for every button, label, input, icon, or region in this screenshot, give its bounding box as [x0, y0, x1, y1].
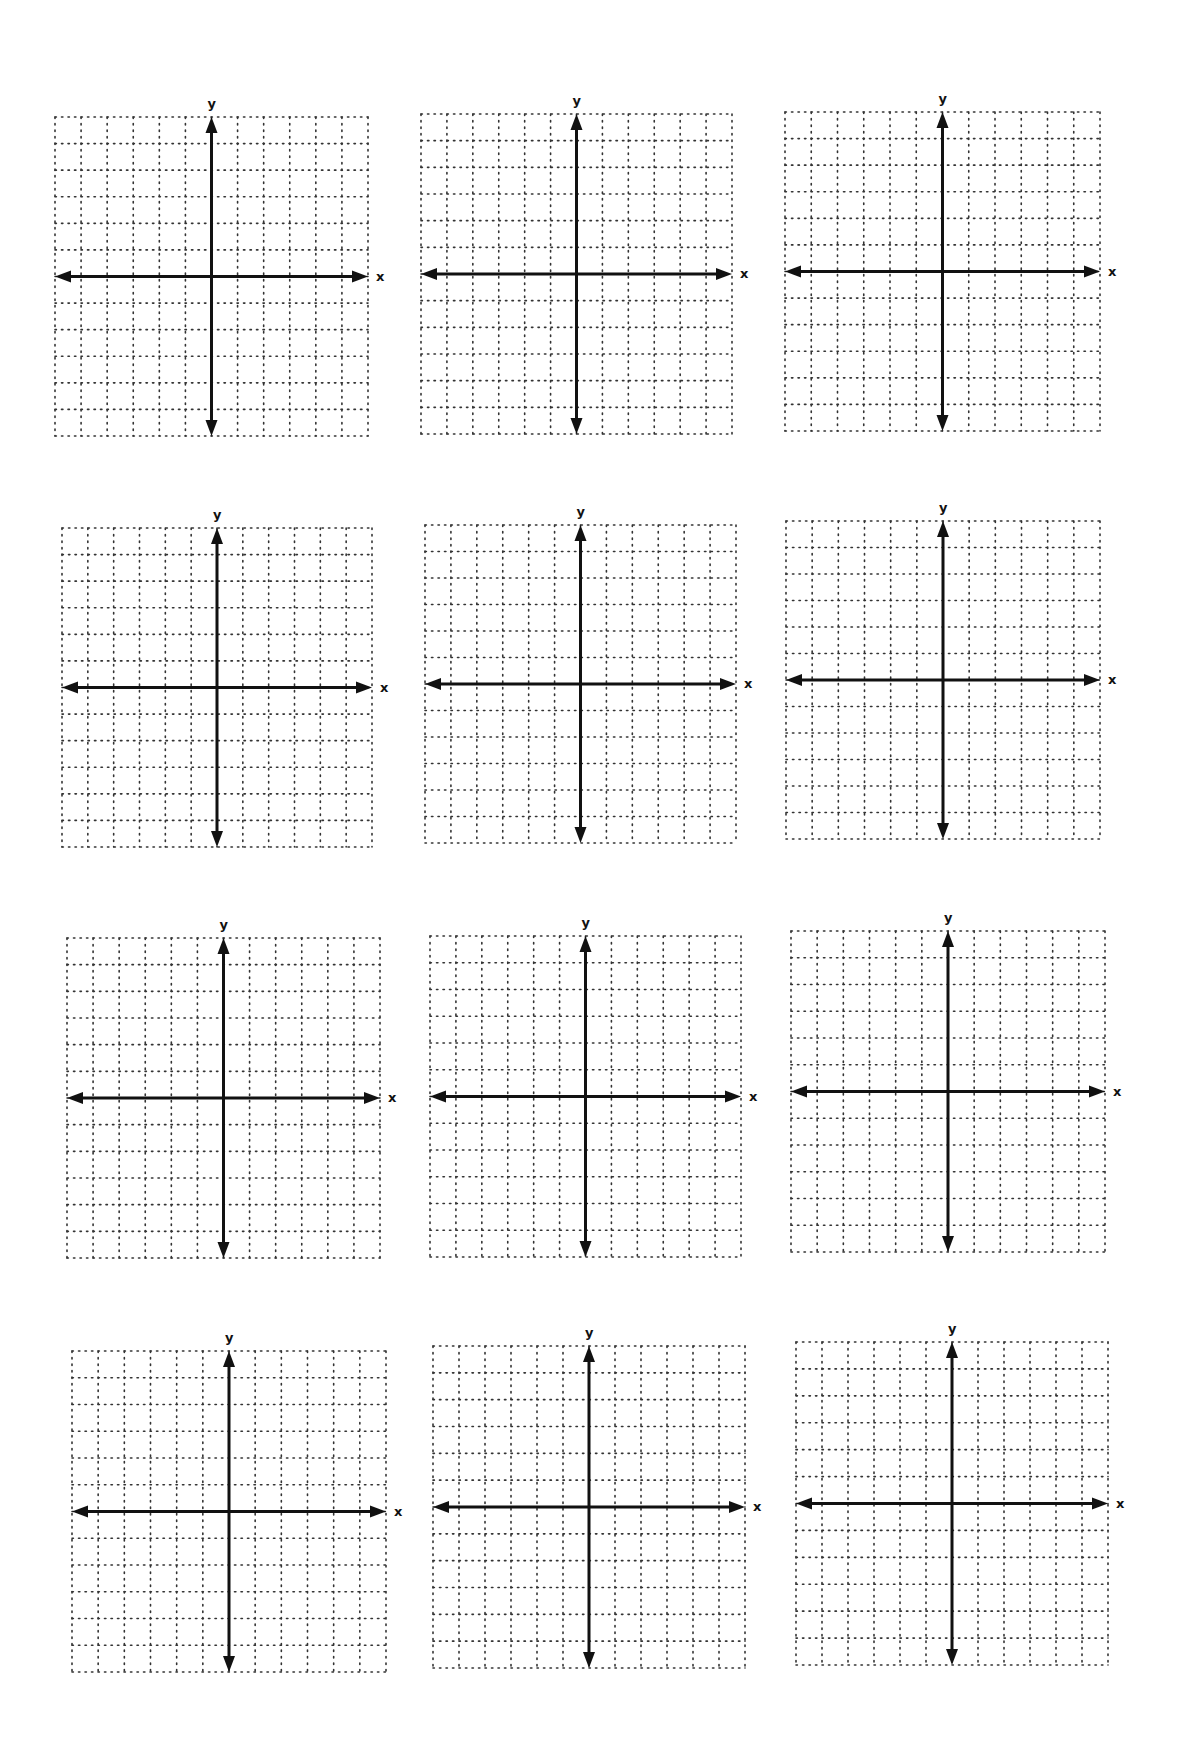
axes	[785, 112, 1100, 431]
y-axis-label: y	[582, 916, 590, 929]
arrow-down-icon	[571, 418, 583, 434]
arrow-down-icon	[218, 1242, 230, 1258]
grid	[425, 525, 736, 843]
axes	[433, 1346, 745, 1668]
arrow-down-icon	[580, 1241, 592, 1257]
y-axis-label: y	[577, 505, 585, 518]
y-axis-label: y	[948, 1322, 956, 1335]
coordinate-plane-6: xy	[786, 521, 1100, 839]
arrow-right-icon	[729, 1501, 745, 1513]
arrow-up-icon	[942, 931, 954, 947]
coordinate-plane-9: xy	[791, 931, 1105, 1252]
x-axis-label: x	[753, 1500, 761, 1513]
arrow-right-icon	[1089, 1086, 1105, 1098]
arrow-down-icon	[583, 1652, 595, 1668]
axes	[796, 1342, 1108, 1665]
arrow-down-icon	[575, 827, 587, 843]
arrow-right-icon	[725, 1091, 741, 1103]
arrow-left-icon	[433, 1501, 449, 1513]
arrow-up-icon	[211, 528, 223, 544]
axes	[425, 525, 736, 843]
x-axis-label: x	[740, 267, 748, 280]
y-axis-label: y	[944, 911, 952, 924]
x-axis-label: x	[1108, 673, 1116, 686]
arrow-right-icon	[1092, 1498, 1108, 1510]
arrow-down-icon	[223, 1656, 235, 1672]
y-axis-label: y	[220, 918, 228, 931]
y-axis-label: y	[213, 508, 221, 521]
coordinate-plane-12: xy	[796, 1342, 1108, 1665]
arrow-left-icon	[425, 678, 441, 690]
arrow-left-icon	[62, 682, 78, 694]
arrow-left-icon	[430, 1091, 446, 1103]
x-axis-label: x	[394, 1505, 402, 1518]
axes	[421, 114, 732, 434]
arrow-up-icon	[223, 1351, 235, 1367]
arrow-right-icon	[720, 678, 736, 690]
arrow-left-icon	[72, 1506, 88, 1518]
x-axis-label: x	[1108, 265, 1116, 278]
x-axis-label: x	[388, 1091, 396, 1104]
grid	[421, 114, 732, 434]
x-axis-label: x	[380, 681, 388, 694]
coordinate-plane-3: xy	[785, 112, 1100, 431]
arrow-right-icon	[370, 1506, 386, 1518]
grid	[430, 936, 741, 1257]
y-axis-label: y	[939, 92, 947, 105]
coordinate-plane-8: xy	[430, 936, 741, 1257]
arrow-left-icon	[785, 266, 801, 278]
grid	[796, 1342, 1108, 1665]
arrow-up-icon	[571, 114, 583, 130]
arrow-left-icon	[421, 268, 437, 280]
x-axis-label: x	[744, 677, 752, 690]
arrow-down-icon	[942, 1236, 954, 1252]
arrow-right-icon	[1084, 266, 1100, 278]
y-axis-label: y	[939, 501, 947, 514]
arrow-up-icon	[937, 521, 949, 537]
arrow-right-icon	[1084, 674, 1100, 686]
x-axis-label: x	[749, 1090, 757, 1103]
coordinate-plane-4: xy	[62, 528, 372, 847]
axes	[62, 528, 372, 847]
axes	[786, 521, 1100, 839]
axes	[791, 931, 1105, 1252]
grid	[785, 112, 1100, 431]
arrow-up-icon	[583, 1346, 595, 1362]
coordinate-plane-10: xy	[72, 1351, 386, 1672]
grid	[791, 931, 1105, 1252]
arrow-left-icon	[786, 674, 802, 686]
axes	[67, 938, 380, 1258]
arrow-left-icon	[55, 271, 71, 283]
arrow-left-icon	[796, 1498, 812, 1510]
x-axis-label: x	[1116, 1497, 1124, 1510]
arrow-down-icon	[946, 1649, 958, 1665]
arrow-down-icon	[206, 420, 218, 436]
grid	[67, 938, 380, 1258]
coordinate-plane-2: xy	[421, 114, 732, 434]
x-axis-label: x	[376, 270, 384, 283]
arrow-up-icon	[206, 117, 218, 133]
arrow-up-icon	[575, 525, 587, 541]
arrow-up-icon	[946, 1342, 958, 1358]
y-axis-label: y	[208, 97, 216, 110]
coordinate-plane-1: xy	[55, 117, 368, 436]
axes	[430, 936, 741, 1257]
grid	[62, 528, 372, 847]
arrow-up-icon	[580, 936, 592, 952]
arrow-left-icon	[67, 1092, 83, 1104]
arrow-down-icon	[211, 831, 223, 847]
coordinate-plane-5: xy	[425, 525, 736, 843]
arrow-up-icon	[937, 112, 949, 128]
grid	[786, 521, 1100, 839]
arrow-up-icon	[218, 938, 230, 954]
coordinate-plane-11: xy	[433, 1346, 745, 1668]
arrow-left-icon	[791, 1086, 807, 1098]
grid	[433, 1346, 745, 1668]
y-axis-label: y	[225, 1331, 233, 1344]
x-axis-label: x	[1113, 1085, 1121, 1098]
y-axis-label: y	[585, 1326, 593, 1339]
arrow-right-icon	[716, 268, 732, 280]
axes	[55, 117, 368, 436]
axes	[72, 1351, 386, 1672]
arrow-right-icon	[364, 1092, 380, 1104]
